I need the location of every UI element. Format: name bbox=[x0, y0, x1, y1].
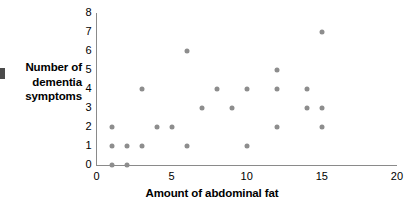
data-point bbox=[169, 124, 174, 129]
x-axis-line bbox=[96, 165, 397, 166]
data-point bbox=[319, 105, 324, 110]
data-point bbox=[139, 86, 144, 91]
data-point bbox=[124, 143, 129, 148]
x-tick-label-10: 10 bbox=[236, 170, 258, 182]
data-point bbox=[109, 124, 114, 129]
x-tick-label-15: 15 bbox=[311, 170, 333, 182]
data-point bbox=[154, 124, 159, 129]
data-point bbox=[319, 29, 324, 34]
data-point bbox=[214, 86, 219, 91]
y-tick-label-5: 5 bbox=[78, 63, 92, 75]
y-axis-line bbox=[96, 13, 97, 166]
data-point bbox=[199, 105, 204, 110]
x-tick-label-5: 5 bbox=[161, 170, 183, 182]
y-tick-label-1: 1 bbox=[78, 139, 92, 151]
data-point bbox=[109, 143, 114, 148]
scatter-plot-figure: Number ofdementiasymptoms Amount of abdo… bbox=[0, 0, 419, 209]
data-point bbox=[229, 105, 234, 110]
plot-area: 012345678 05101520 bbox=[0, 0, 419, 209]
y-tick-label-2: 2 bbox=[78, 120, 92, 132]
data-point bbox=[244, 143, 249, 148]
y-tick-label-3: 3 bbox=[78, 101, 92, 113]
y-tick-label-4: 4 bbox=[78, 82, 92, 94]
y-tick-label-6: 6 bbox=[78, 44, 92, 56]
data-point bbox=[274, 67, 279, 72]
data-point bbox=[139, 143, 144, 148]
data-point bbox=[184, 143, 189, 148]
data-point bbox=[124, 162, 129, 167]
data-point bbox=[109, 162, 114, 167]
data-point bbox=[304, 86, 309, 91]
data-point bbox=[184, 48, 189, 53]
x-tick-label-20: 20 bbox=[386, 170, 408, 182]
y-tick-label-7: 7 bbox=[78, 25, 92, 37]
data-point bbox=[274, 124, 279, 129]
data-point bbox=[304, 105, 309, 110]
data-point bbox=[319, 124, 324, 129]
y-tick-label-8: 8 bbox=[78, 6, 92, 18]
y-tick-label-0: 0 bbox=[78, 158, 92, 170]
x-tick-label-0: 0 bbox=[86, 170, 108, 182]
data-point bbox=[244, 86, 249, 91]
data-point bbox=[274, 86, 279, 91]
